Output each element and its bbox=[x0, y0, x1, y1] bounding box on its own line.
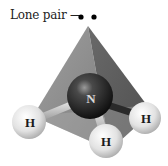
hydrogen-atom-left: H bbox=[12, 105, 46, 139]
ammonia-molecule-diagram: Lone pair — bbox=[0, 0, 168, 166]
hydrogen-atom-front: H bbox=[89, 124, 123, 158]
svg-text:H: H bbox=[141, 111, 151, 126]
svg-text:N: N bbox=[86, 91, 96, 106]
nitrogen-atom: N bbox=[67, 73, 113, 119]
svg-text:H: H bbox=[25, 115, 35, 130]
lone-pair-dots-icon bbox=[78, 14, 96, 19]
molecule-graphic: H N H H bbox=[0, 0, 168, 166]
hydrogen-atom-right: H bbox=[129, 102, 161, 134]
svg-text:H: H bbox=[101, 134, 111, 149]
